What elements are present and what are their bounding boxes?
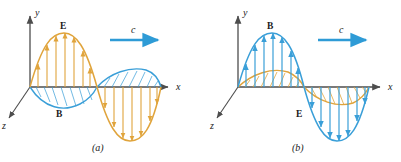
b-field-label-b: B — [267, 22, 273, 32]
speed-label-a: c — [131, 25, 135, 35]
panel-caption-a: (a) — [92, 143, 104, 153]
e-field-label-a: E — [60, 22, 66, 32]
y-axis-label-b: y — [243, 8, 247, 18]
z-axis-label-b: z — [210, 121, 214, 131]
panel-caption-b: (b) — [292, 143, 304, 153]
b-field-label-a: B — [56, 110, 62, 120]
y-axis-label-a: y — [35, 8, 39, 18]
e-field-label-b: E — [296, 110, 302, 120]
x-axis-label-b: x — [388, 82, 392, 92]
z-axis-b — [217, 87, 238, 118]
z-axis-a — [9, 87, 30, 118]
speed-label-b: c — [339, 25, 343, 35]
panel-a-drawing — [0, 0, 200, 162]
panel-b-drawing — [200, 0, 400, 162]
figure-root: y x z E B c (a) — [0, 0, 401, 162]
panel-b: y x z B E c (b) — [200, 0, 400, 162]
z-axis-label-a: z — [2, 121, 6, 131]
panel-a: y x z E B c (a) — [0, 0, 200, 162]
x-axis-label-a: x — [176, 82, 180, 92]
